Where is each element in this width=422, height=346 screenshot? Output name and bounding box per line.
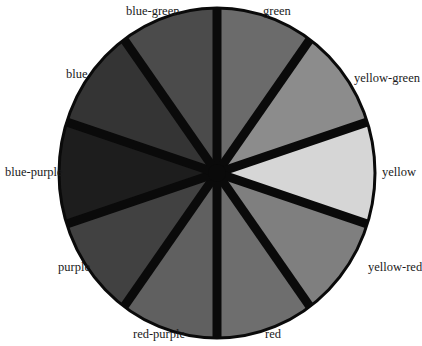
label-blue-purple: blue-purple bbox=[5, 166, 63, 179]
label-yellow-green: yellow-green bbox=[354, 72, 420, 85]
label-blue: blue bbox=[66, 68, 88, 81]
label-blue-green: blue-green bbox=[126, 5, 179, 18]
label-yellow-red: yellow-red bbox=[368, 261, 422, 274]
label-green: green bbox=[263, 5, 291, 18]
label-purple: purple bbox=[58, 261, 90, 274]
label-red: red bbox=[265, 328, 281, 341]
label-red-purple: red-purple bbox=[133, 328, 185, 341]
label-yellow: yellow bbox=[382, 166, 416, 179]
wheel-hub bbox=[208, 164, 226, 182]
